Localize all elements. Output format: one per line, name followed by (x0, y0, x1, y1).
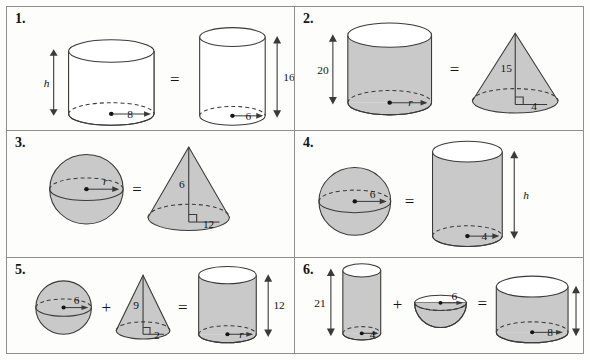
dimension-height-right-6 (572, 285, 580, 336)
operator-equals-1: = (170, 70, 180, 88)
label-sphere-radius-4: 6 (370, 188, 376, 200)
problem-cell-4: 4. (295, 131, 583, 258)
problem-cell-5: 5. (7, 258, 295, 353)
label-cone-radius-3: 12 (203, 218, 214, 230)
problem-5-svg: + = 6 9 2 12 r (7, 258, 294, 353)
problem-cell-6: 6. (295, 258, 583, 353)
operator-equals-2: = (450, 60, 460, 78)
label-radius-left-1: 8 (127, 108, 133, 120)
problem-cell-1: 1. (7, 7, 295, 131)
label-cone-height-5: 9 (133, 299, 139, 311)
shape-cone-5 (116, 275, 170, 339)
dimension-height-left-6 (327, 268, 335, 336)
label-cyl-radius-5: r (239, 328, 244, 340)
label-height-4: h (523, 189, 529, 201)
label-cyl-right-radius-6: 8 (547, 326, 553, 338)
problem-cell-2: 2. (295, 7, 583, 131)
shape-sphere-5 (36, 281, 92, 334)
problem-2-figure-stage: = 20 r 15 4 (295, 7, 583, 130)
shape-cylinder-4 (433, 141, 503, 246)
label-sphere-radius-5: 6 (74, 294, 80, 306)
label-height-2: 20 (317, 64, 329, 76)
operator-equals-3: = (132, 180, 142, 198)
label-radius-right-1: 6 (245, 110, 251, 122)
label-cyl-left-height-6: 21 (314, 297, 325, 309)
label-cone-radius-2: 4 (531, 101, 537, 113)
problem-3-figure-stage: = r 6 12 (7, 131, 294, 257)
operator-equals-6: = (478, 294, 488, 313)
shape-cylinder-right-1 (200, 28, 266, 126)
label-sphere-radius-3: r (103, 176, 108, 188)
label-radius-2: r (408, 97, 413, 109)
dimension-height-right-1 (273, 36, 281, 118)
dimension-height-5 (264, 274, 272, 337)
label-cone-radius-5: 2 (154, 329, 160, 341)
label-cone-height-3: 6 (179, 178, 185, 190)
problem-4-svg: = 6 h 4 (295, 131, 583, 257)
problem-6-figure-stage: + = 21 4 6 h 8 (295, 258, 583, 353)
label-hemisphere-radius-6: 6 (452, 290, 458, 302)
shape-cone-2 (472, 33, 558, 113)
problem-4-figure-stage: = 6 h 4 (295, 131, 583, 257)
problem-1-svg: = h 8 16 6 (7, 7, 294, 130)
dimension-height-2 (329, 34, 337, 104)
label-cyl-left-radius-6: 4 (370, 328, 376, 340)
label-height-right-1: 16 (283, 71, 294, 83)
problem-5-figure-stage: + = 6 9 2 12 r (7, 258, 294, 353)
shape-cone-3 (148, 147, 229, 231)
operator-plus-6: + (393, 295, 403, 314)
dimension-height-4 (510, 151, 518, 239)
operator-equals-4: = (405, 192, 415, 210)
label-height-left-1: h (44, 77, 50, 89)
label-cyl-height-5: 12 (273, 299, 284, 311)
label-radius-4: 4 (481, 230, 487, 242)
problem-cell-3: 3. (7, 131, 295, 258)
problem-grid: 1. (6, 6, 584, 354)
problem-1-figure-stage: = h 8 16 6 (7, 7, 294, 130)
operator-plus-5: + (102, 298, 112, 317)
shape-sphere-4 (319, 168, 391, 236)
problem-3-svg: = r 6 12 (7, 131, 294, 257)
operator-equals-5: = (178, 298, 188, 317)
shape-hemisphere-6 (415, 295, 467, 327)
problem-6-svg: + = 21 4 6 h 8 (295, 258, 583, 353)
dimension-height-left-1 (50, 49, 58, 116)
label-cone-height-2: 15 (501, 62, 513, 74)
shape-sphere-3 (50, 154, 123, 223)
problem-2-svg: = 20 r 15 4 (295, 7, 583, 130)
worksheet-sheet: 1. (0, 0, 590, 360)
shape-cylinder-5 (199, 266, 257, 342)
